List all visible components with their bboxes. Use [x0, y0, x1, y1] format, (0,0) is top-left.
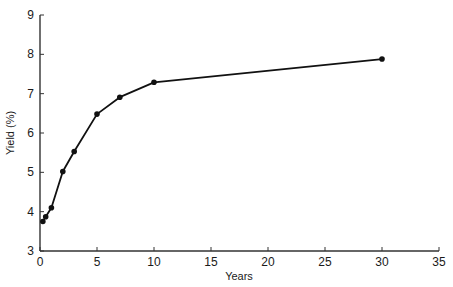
- y-tick-label: 7: [27, 87, 34, 101]
- data-point-marker: [60, 169, 66, 175]
- yield-line: [43, 59, 382, 221]
- y-tick-label: 8: [27, 47, 34, 61]
- y-tick-label: 3: [27, 244, 34, 258]
- x-axis-title: Years: [225, 270, 253, 282]
- y-axis-title: Yield (%): [4, 111, 16, 155]
- yield-curve-chart: 3456789 05101520253035 Years Yield (%): [0, 0, 453, 287]
- x-tick-label: 5: [94, 255, 101, 269]
- y-tick-label: 6: [27, 126, 34, 140]
- x-tick-label: 35: [432, 255, 446, 269]
- data-point-marker: [117, 94, 123, 100]
- data-point-marker: [43, 214, 49, 220]
- data-point-marker: [40, 219, 46, 225]
- y-tick-label: 5: [27, 165, 34, 179]
- data-point-marker: [151, 79, 157, 85]
- x-tick-label: 10: [147, 255, 161, 269]
- x-tick-label: 15: [204, 255, 218, 269]
- y-tick-label: 4: [27, 205, 34, 219]
- x-tick-label: 0: [37, 255, 44, 269]
- data-point-marker: [94, 111, 100, 117]
- chart-canvas: 3456789 05101520253035 Years Yield (%): [0, 0, 453, 287]
- axes: [40, 15, 439, 251]
- data-point-marker: [49, 205, 55, 211]
- data-series: [40, 56, 385, 224]
- x-tick-label: 25: [318, 255, 332, 269]
- data-point-marker: [379, 56, 385, 62]
- x-tick-label: 20: [261, 255, 275, 269]
- x-tick-label: 30: [375, 255, 389, 269]
- data-point-marker: [71, 149, 77, 155]
- y-tick-label: 9: [27, 8, 34, 22]
